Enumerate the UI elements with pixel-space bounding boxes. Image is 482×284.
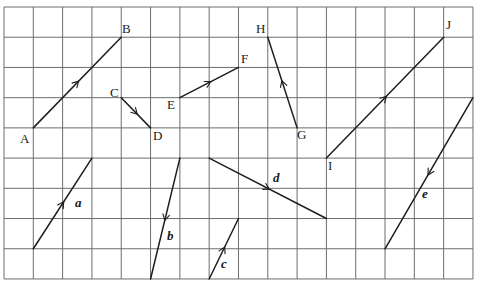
vector-cd (121, 98, 150, 128)
point-label-i: I (328, 158, 332, 173)
segment-line (121, 98, 150, 128)
point-label-a: A (20, 131, 30, 146)
segment-line (268, 37, 297, 128)
vector-label-c: c (221, 256, 227, 271)
segment-line (33, 37, 121, 128)
point-label-c: C (110, 85, 119, 100)
segment-line (385, 98, 473, 249)
point-label-d: D (153, 128, 162, 143)
vector-label-e: e (422, 186, 428, 201)
point-label-j: J (446, 17, 451, 32)
vector-label-b: b (167, 228, 174, 243)
point-label-b: B (122, 21, 131, 36)
vector-grid-diagram: A B C D E F G H I J a b c d e (0, 0, 482, 284)
vector-label-a: a (75, 195, 82, 210)
point-label-h: H (256, 21, 265, 36)
vector-label-d: d (273, 170, 280, 185)
square-grid (4, 7, 473, 279)
vector-gh (268, 37, 297, 128)
vector-e (385, 98, 473, 249)
point-label-g: G (297, 127, 306, 142)
point-label-e: E (167, 97, 175, 112)
vector-ab (33, 37, 121, 128)
point-label-f: F (241, 51, 248, 66)
